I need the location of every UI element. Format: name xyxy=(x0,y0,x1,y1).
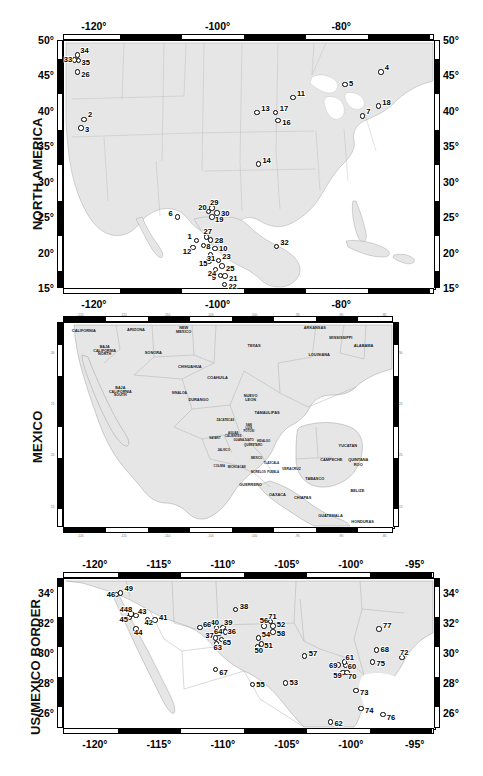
site-label-27: 27 xyxy=(203,228,211,236)
tick-lon-top: -110 xyxy=(164,313,170,317)
site-dot-4[interactable] xyxy=(378,69,383,74)
site-label-35: 35 xyxy=(81,59,89,67)
site-dot-68[interactable] xyxy=(374,647,379,652)
site-label-30: 30 xyxy=(221,210,229,218)
site-dot-28[interactable] xyxy=(208,237,213,242)
region-label: DURANGO xyxy=(188,398,208,402)
tick-lat-left: 35° xyxy=(38,140,54,152)
site-dot-30[interactable] xyxy=(214,210,219,215)
site-label-69: 69 xyxy=(329,662,337,670)
site-dot-18[interactable] xyxy=(376,103,381,108)
axis-right-border xyxy=(434,578,440,728)
site-dot-77[interactable] xyxy=(376,626,381,631)
site-label-2: 2 xyxy=(88,111,92,119)
region-label: ARKANSAS xyxy=(304,326,326,330)
site-label-18: 18 xyxy=(382,99,390,107)
site-dot-32[interactable] xyxy=(274,244,279,249)
region-label: CAMPECHE xyxy=(320,458,342,462)
tick-lat-left: 30 xyxy=(51,351,54,355)
site-label-33: 33 xyxy=(64,56,72,64)
tick-lon-bottom: -95° xyxy=(405,738,424,750)
site-dot-26[interactable] xyxy=(75,69,80,74)
site-label-32: 32 xyxy=(280,239,288,247)
tick-lon-top: -95° xyxy=(405,558,424,570)
axis-top-border xyxy=(63,572,434,578)
site-dot-73[interactable] xyxy=(353,688,358,693)
site-dot-62[interactable] xyxy=(328,719,333,724)
site-dot-21[interactable] xyxy=(222,273,227,278)
tick-lon-top: -85 xyxy=(382,313,386,317)
tick-lat-left: 25° xyxy=(38,211,54,223)
site-label-59: 59 xyxy=(333,672,341,680)
site-label-74: 74 xyxy=(365,707,373,715)
tick-lon-top: -115 xyxy=(121,313,127,317)
site-label-8: 8 xyxy=(206,243,210,251)
site-label-17: 17 xyxy=(280,105,288,113)
tick-lon-bottom: -100 xyxy=(251,534,257,538)
axis-left-mexico xyxy=(57,322,63,527)
tick-lat-left: 15° xyxy=(38,282,54,294)
site-label-24: 24 xyxy=(208,270,216,278)
site-dot-5[interactable] xyxy=(342,82,347,87)
site-dot-53[interactable] xyxy=(283,680,288,685)
region-label: GUATEMALA xyxy=(318,514,343,518)
site-label-43: 43 xyxy=(138,608,146,616)
site-dot-66[interactable] xyxy=(197,625,202,630)
tick-lon-top: -110° xyxy=(211,558,236,570)
site-label-29: 29 xyxy=(210,199,218,207)
site-label-4: 4 xyxy=(385,64,389,72)
site-dot-67[interactable] xyxy=(213,667,218,672)
site-dot-2[interactable] xyxy=(81,117,86,122)
tick-lat-right: 28° xyxy=(443,677,459,689)
site-label-23: 23 xyxy=(222,253,230,261)
site-label-22: 22 xyxy=(228,283,236,291)
region-label: NAYARIT xyxy=(209,437,220,440)
site-dot-14[interactable] xyxy=(256,161,261,166)
site-dot-58[interactable] xyxy=(270,629,275,634)
site-dot-76[interactable] xyxy=(380,712,385,717)
tick-lat-right: 45° xyxy=(443,69,459,81)
tick-lon-top: -120 xyxy=(77,313,83,317)
site-dot-52[interactable] xyxy=(270,623,275,628)
site-dot-13[interactable] xyxy=(254,110,259,115)
tick-lat-right: 35° xyxy=(443,140,459,152)
site-dot-75[interactable] xyxy=(370,659,375,664)
site-label-67: 67 xyxy=(219,669,227,677)
site-dot-23[interactable] xyxy=(216,258,221,263)
site-dot-11[interactable] xyxy=(290,95,295,100)
tick-lon-bottom: -120° xyxy=(82,738,107,750)
region-label: CHIHUAHUA xyxy=(178,365,202,369)
axis-bottom-border xyxy=(63,728,434,734)
region-label: GUERRERO xyxy=(239,483,261,487)
tick-lat-right: 15° xyxy=(443,282,459,294)
site-label-50: 50 xyxy=(254,647,262,655)
region-label: HONDURAS xyxy=(351,520,373,524)
site-dot-3[interactable] xyxy=(78,125,83,130)
site-label-39: 39 xyxy=(224,619,232,627)
site-dot-7[interactable] xyxy=(360,113,365,118)
map-north-america xyxy=(63,40,436,290)
site-label-38: 38 xyxy=(240,603,248,611)
site-dot-74[interactable] xyxy=(358,706,363,711)
site-label-6: 6 xyxy=(168,210,172,218)
site-dot-49[interactable] xyxy=(118,590,123,595)
site-dot-10[interactable] xyxy=(212,246,217,251)
region-label: LOUISIANA xyxy=(308,353,329,357)
site-label-73: 73 xyxy=(360,689,368,697)
region-label: GUANAJUATO xyxy=(234,439,254,442)
tick-lon-top: -100 xyxy=(251,313,257,317)
figure-root: NORTH AMERICA xyxy=(0,0,483,776)
site-dot-41[interactable] xyxy=(152,617,157,622)
site-dot-6[interactable] xyxy=(175,214,180,219)
region-label: QUERETARO xyxy=(244,444,262,447)
axis-bottom-north-america xyxy=(63,288,434,294)
tick-lat-right: 34° xyxy=(443,587,459,599)
region-label: TABASCO xyxy=(305,477,324,481)
axis-top-north-america xyxy=(63,34,434,40)
site-label-42: 42 xyxy=(144,619,152,627)
site-dot-25[interactable] xyxy=(219,263,224,268)
tick-lon-top: -80° xyxy=(332,20,351,32)
tick-lon-bottom: -100° xyxy=(205,298,230,310)
tick-lat-left: 15 xyxy=(51,505,54,509)
panel-title-mexico: MEXICO xyxy=(30,411,45,463)
